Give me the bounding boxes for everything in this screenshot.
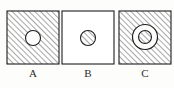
square-a-fill bbox=[7, 11, 59, 64]
circle-b-hatched bbox=[81, 31, 96, 46]
figure-item-b bbox=[62, 11, 114, 64]
figure-label-a: A bbox=[7, 68, 59, 79]
figure-item-c bbox=[119, 11, 171, 64]
square-c-fill bbox=[119, 11, 171, 64]
figure-label-b: B bbox=[62, 68, 114, 79]
figure-container: A B C bbox=[0, 0, 174, 88]
figure-label-c: C bbox=[119, 68, 171, 79]
figure-item-a bbox=[7, 11, 59, 64]
